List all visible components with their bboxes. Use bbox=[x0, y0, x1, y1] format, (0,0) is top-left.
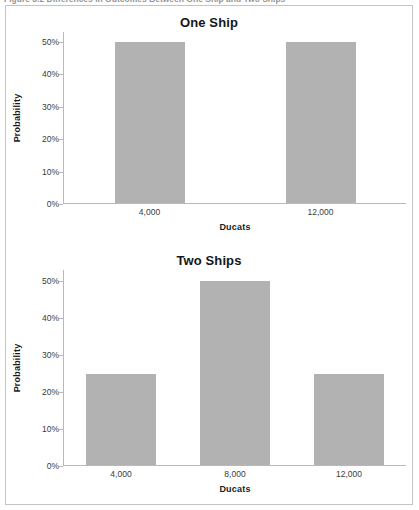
y-axis-tickmark bbox=[59, 355, 63, 356]
y-axis-tick-label: 30% bbox=[42, 350, 59, 360]
x-axis-label-one-ship: Ducats bbox=[64, 220, 406, 234]
y-axis-ticks-one-ship: 0%10%20%30%40%50% bbox=[24, 32, 62, 204]
bar-group-one-ship bbox=[64, 32, 406, 204]
bar bbox=[314, 374, 384, 466]
bar-slot bbox=[64, 32, 235, 204]
x-axis-label-two-ships: Ducats bbox=[64, 482, 406, 496]
bar bbox=[286, 42, 356, 204]
bar-slot bbox=[235, 32, 406, 204]
x-axis-ticks-two-ships: 4,0008,00012,000 bbox=[64, 466, 406, 482]
y-axis-tickmark bbox=[59, 318, 63, 319]
chart-panel-one-ship: One Ship Probability 0%10%20%30%40%50% 4… bbox=[6, 8, 412, 240]
y-axis-tickmark bbox=[59, 466, 63, 467]
plot-area-one-ship bbox=[64, 32, 406, 204]
chart-title-two-ships: Two Ships bbox=[6, 246, 412, 270]
bar bbox=[115, 42, 185, 204]
x-axis-tick-label: 4,000 bbox=[64, 466, 178, 482]
plot-area-two-ships bbox=[64, 270, 406, 466]
plot-region-one-ship: Probability 0%10%20%30%40%50% bbox=[6, 32, 412, 204]
chart-title-one-ship: One Ship bbox=[6, 8, 412, 32]
x-axis-ticks-one-ship: 4,00012,000 bbox=[64, 204, 406, 220]
x-axis-tick-label: 4,000 bbox=[64, 204, 235, 220]
x-axis-tick-label: 12,000 bbox=[292, 466, 406, 482]
y-axis-tick-label: 0% bbox=[47, 461, 59, 471]
bar-slot bbox=[178, 270, 292, 466]
bar-slot bbox=[292, 270, 406, 466]
y-axis-tickmark bbox=[59, 139, 63, 140]
y-axis-tickmark bbox=[59, 281, 63, 282]
y-axis-tickmark bbox=[59, 172, 63, 173]
y-axis-tick-label: 50% bbox=[42, 37, 59, 47]
bar bbox=[200, 281, 270, 466]
y-axis-tickmark bbox=[59, 74, 63, 75]
bar bbox=[86, 374, 156, 466]
x-axis-tick-label: 8,000 bbox=[178, 466, 292, 482]
bar-slot bbox=[64, 270, 178, 466]
y-axis-tick-label: 10% bbox=[42, 167, 59, 177]
y-axis-tickmark bbox=[59, 429, 63, 430]
y-axis-tick-label: 50% bbox=[42, 276, 59, 286]
y-axis-tickmark bbox=[59, 107, 63, 108]
y-axis-tick-label: 40% bbox=[42, 69, 59, 79]
y-axis-tickmark bbox=[59, 204, 63, 205]
y-axis-label-text: Probability bbox=[12, 94, 22, 143]
y-axis-tickmark bbox=[59, 392, 63, 393]
figure-frame: One Ship Probability 0%10%20%30%40%50% 4… bbox=[5, 5, 413, 505]
y-axis-tick-label: 40% bbox=[42, 313, 59, 323]
y-axis-tickmark bbox=[59, 42, 63, 43]
y-axis-label-text: Probability bbox=[12, 344, 22, 393]
chart-panel-two-ships: Two Ships Probability 0%10%20%30%40%50% … bbox=[6, 246, 412, 502]
y-axis-ticks-two-ships: 0%10%20%30%40%50% bbox=[24, 270, 62, 466]
y-axis-tick-label: 20% bbox=[42, 387, 59, 397]
y-axis-tick-label: 30% bbox=[42, 102, 59, 112]
bar-group-two-ships bbox=[64, 270, 406, 466]
y-axis-tick-label: 10% bbox=[42, 424, 59, 434]
y-axis-tick-label: 0% bbox=[47, 199, 59, 209]
x-axis-tick-label: 12,000 bbox=[235, 204, 406, 220]
y-axis-tick-label: 20% bbox=[42, 134, 59, 144]
plot-region-two-ships: Probability 0%10%20%30%40%50% bbox=[6, 270, 412, 466]
